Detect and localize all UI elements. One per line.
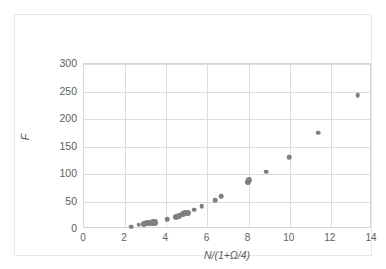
y-tick-label: 150	[59, 140, 77, 152]
data-point	[185, 209, 191, 215]
data-point	[287, 155, 292, 160]
gridline-vertical	[331, 64, 332, 227]
y-axis-title: F	[19, 134, 31, 141]
plot-area	[83, 63, 371, 228]
data-point	[219, 194, 224, 199]
x-tick-label: 6	[204, 232, 210, 243]
data-point	[199, 204, 204, 209]
data-point	[316, 130, 321, 135]
x-tick-label: 10	[283, 232, 294, 243]
x-tick-label: 14	[365, 232, 376, 243]
y-tick-label: 250	[59, 85, 77, 97]
data-point	[264, 170, 269, 175]
gridline-horizontal	[84, 202, 370, 203]
y-tick-label: 100	[59, 167, 77, 179]
x-axis-title: N/(1+Ω/4)	[83, 249, 371, 261]
data-point	[152, 219, 158, 225]
y-tick-label: 0	[71, 222, 77, 234]
gridline-horizontal	[84, 147, 370, 148]
data-point	[165, 217, 170, 222]
gridline-horizontal	[84, 174, 370, 175]
gridline-vertical	[207, 64, 208, 227]
gridline-horizontal	[84, 92, 370, 93]
data-point	[192, 207, 197, 212]
x-tick-label: 12	[324, 232, 335, 243]
gridline-horizontal	[84, 119, 370, 120]
x-tick-label: 4	[163, 232, 169, 243]
y-tick-label: 200	[59, 112, 77, 124]
data-point	[246, 177, 252, 183]
data-point	[355, 93, 360, 98]
x-tick-label: 0	[80, 232, 86, 243]
chart-container: 300250200150100500 02468101214 F N/(1+Ω/…	[14, 14, 372, 256]
gridline-vertical	[249, 64, 250, 227]
x-axis-tick-labels: 02468101214	[83, 232, 371, 246]
x-tick-label: 2	[121, 232, 127, 243]
data-point	[213, 198, 218, 203]
y-axis-tick-labels: 300250200150100500	[35, 63, 77, 228]
y-tick-label: 50	[65, 195, 77, 207]
gridline-vertical	[290, 64, 291, 227]
y-tick-label: 300	[59, 57, 77, 69]
x-tick-label: 8	[245, 232, 251, 243]
gridline-vertical	[166, 64, 167, 227]
data-point	[129, 225, 134, 230]
gridline-vertical	[125, 64, 126, 227]
gridline-horizontal	[84, 64, 370, 65]
